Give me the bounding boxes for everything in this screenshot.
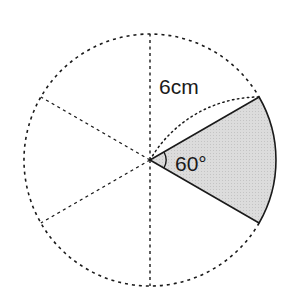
angle-label: 60° xyxy=(175,152,207,175)
spoke-lower-left xyxy=(41,160,150,223)
radius-label: 6cm xyxy=(159,75,199,98)
shaded-sector xyxy=(150,97,276,223)
spoke-upper-left xyxy=(41,97,150,160)
sector-diagram: 6cm 60° xyxy=(0,0,295,305)
